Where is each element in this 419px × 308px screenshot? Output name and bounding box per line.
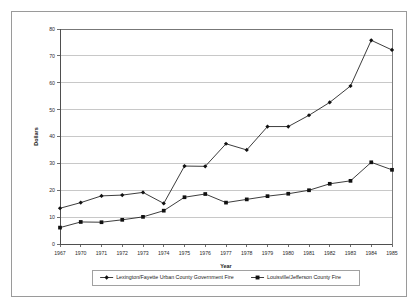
chart-plot-container: 8070605040302010019671970197119721973197… [12,12,406,296]
legend-label-0: Lexington/Fayette Urban County Governmen… [116,274,234,280]
x-axis-tick-label: 1982 [324,250,336,256]
x-axis-tick-label: 1973 [137,250,149,256]
data-point-marker [162,201,166,205]
data-point-marker [390,48,394,52]
data-point-marker [182,164,186,168]
x-axis-title: Year [220,263,232,269]
x-axis-tick-label: 1974 [158,250,170,256]
data-point-marker [58,226,62,230]
data-point-marker [349,179,353,183]
y-axis-tick-label: 80 [49,26,55,32]
x-axis-tick-label: 1980 [282,250,294,256]
y-axis-tick-label: 0 [52,241,55,247]
data-point-marker [369,38,373,42]
data-point-marker [266,194,270,198]
data-point-marker [245,198,249,202]
data-point-marker [100,220,104,224]
line-chart: 8070605040302010019671970197119721973197… [12,12,406,296]
x-axis-tick-label: 1975 [179,250,191,256]
y-axis-tick-label: 40 [49,133,55,139]
legend-label-1: Louisville/Jefferson County Fire [267,274,341,280]
series-line-1 [60,162,392,227]
x-axis-tick-label: 1983 [345,250,357,256]
x-axis-tick-label: 1978 [241,250,253,256]
x-axis-tick-label: 1977 [220,250,232,256]
legend-marker-square-icon [256,276,260,280]
chart-figure-frame: 8070605040302010019671970197119721973197… [11,11,407,297]
data-point-marker [390,168,394,172]
data-point-marker [328,182,332,186]
y-axis-tick-label: 70 [49,53,55,59]
data-point-marker [79,220,83,224]
data-point-marker [120,193,124,197]
y-axis-tick-label: 20 [49,187,55,193]
data-point-marker [183,195,187,199]
y-axis-tick-label: 30 [49,160,55,166]
data-point-marker [224,201,228,205]
series-line-0 [60,40,392,208]
y-axis-tick-label: 60 [49,80,55,86]
x-axis-tick-label: 1971 [96,250,108,256]
y-axis-title: Dollars [33,127,39,145]
x-axis-tick-label: 1970 [75,250,87,256]
data-point-marker [162,209,166,213]
x-axis-tick-label: 1985 [386,250,398,256]
x-axis-tick-label: 1984 [365,250,377,256]
data-point-marker [79,201,83,205]
x-axis-tick-label: 1967 [54,250,66,256]
data-point-marker [286,192,290,196]
data-point-marker [141,190,145,194]
x-axis-tick-label: 1976 [199,250,211,256]
data-point-marker [141,215,145,219]
data-point-marker [120,218,124,222]
data-point-marker [58,206,62,210]
x-axis-tick-label: 1972 [116,250,128,256]
data-point-marker [286,124,290,128]
x-axis-tick-label: 1981 [303,250,315,256]
data-point-marker [203,192,207,196]
data-point-marker [307,188,311,192]
y-axis-tick-label: 10 [49,214,55,220]
data-point-marker [99,194,103,198]
y-axis-tick-label: 50 [49,107,55,113]
data-point-marker [307,113,311,117]
data-point-marker [369,160,373,164]
x-axis-tick-label: 1979 [262,250,274,256]
